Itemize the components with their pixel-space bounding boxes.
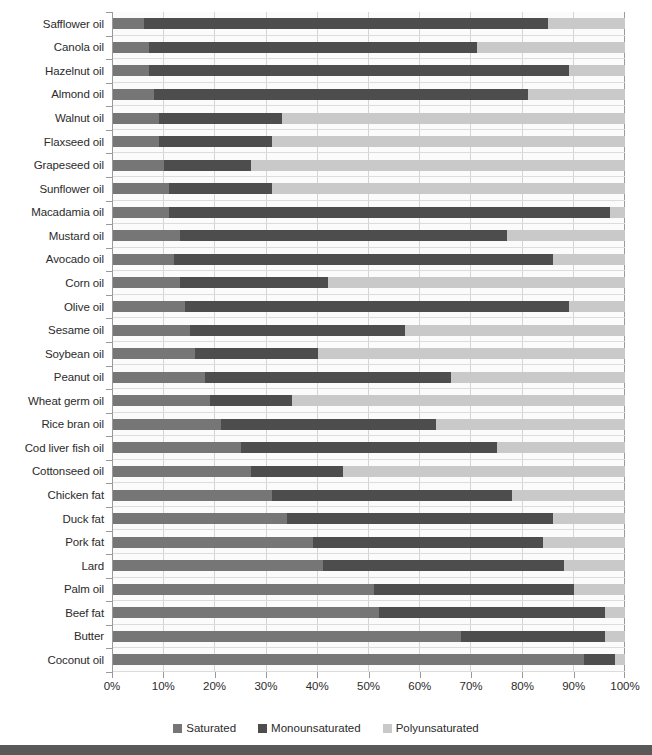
bar-segment-monounsaturated[interactable] [379, 607, 604, 618]
stacked-bar[interactable] [113, 136, 625, 147]
bar-segment-polyunsaturated[interactable] [405, 325, 625, 336]
stacked-bar[interactable] [113, 277, 625, 288]
stacked-bar[interactable] [113, 560, 625, 571]
bar-segment-polyunsaturated[interactable] [436, 419, 625, 430]
bar-row[interactable] [113, 83, 625, 107]
bar-row[interactable] [113, 648, 625, 672]
bar-segment-monounsaturated[interactable] [149, 65, 569, 76]
bar-segment-saturated[interactable] [113, 254, 174, 265]
bar-row[interactable] [113, 201, 625, 225]
stacked-bar[interactable] [113, 113, 625, 124]
bar-segment-saturated[interactable] [113, 160, 164, 171]
bar-segment-monounsaturated[interactable] [584, 654, 615, 665]
bar-segment-saturated[interactable] [113, 230, 180, 241]
bar-segment-saturated[interactable] [113, 207, 169, 218]
bar-segment-saturated[interactable] [113, 631, 461, 642]
bar-row[interactable] [113, 413, 625, 437]
bar-segment-monounsaturated[interactable] [164, 160, 251, 171]
bar-row[interactable] [113, 389, 625, 413]
stacked-bar[interactable] [113, 395, 625, 406]
bar-segment-saturated[interactable] [113, 18, 144, 29]
bar-segment-polyunsaturated[interactable] [553, 254, 625, 265]
bar-segment-saturated[interactable] [113, 183, 169, 194]
stacked-bar[interactable] [113, 348, 625, 359]
bar-segment-saturated[interactable] [113, 65, 149, 76]
stacked-bar[interactable] [113, 301, 625, 312]
bar-segment-monounsaturated[interactable] [461, 631, 604, 642]
bar-segment-monounsaturated[interactable] [195, 348, 318, 359]
bar-segment-monounsaturated[interactable] [180, 277, 328, 288]
bar-row[interactable] [113, 507, 625, 531]
stacked-bar[interactable] [113, 372, 625, 383]
stacked-bar[interactable] [113, 254, 625, 265]
stacked-bar[interactable] [113, 207, 625, 218]
bar-segment-saturated[interactable] [113, 89, 154, 100]
bar-segment-monounsaturated[interactable] [180, 230, 508, 241]
legend-item[interactable]: Monounsaturated [258, 722, 361, 734]
bar-row[interactable] [113, 578, 625, 602]
bar-segment-polyunsaturated[interactable] [282, 113, 625, 124]
bar-segment-polyunsaturated[interactable] [564, 560, 625, 571]
bar-segment-monounsaturated[interactable] [221, 419, 436, 430]
bar-segment-monounsaturated[interactable] [374, 584, 574, 595]
bar-segment-saturated[interactable] [113, 42, 149, 53]
stacked-bar[interactable] [113, 18, 625, 29]
bar-segment-saturated[interactable] [113, 113, 159, 124]
bar-segment-polyunsaturated[interactable] [548, 18, 625, 29]
stacked-bar[interactable] [113, 419, 625, 430]
bar-segment-saturated[interactable] [113, 136, 159, 147]
bar-row[interactable] [113, 224, 625, 248]
bar-segment-monounsaturated[interactable] [272, 490, 513, 501]
bar-segment-saturated[interactable] [113, 654, 584, 665]
stacked-bar[interactable] [113, 442, 625, 453]
bar-row[interactable] [113, 625, 625, 649]
stacked-bar[interactable] [113, 466, 625, 477]
bar-row[interactable] [113, 365, 625, 389]
bar-row[interactable] [113, 342, 625, 366]
bar-segment-polyunsaturated[interactable] [615, 654, 625, 665]
bar-row[interactable] [113, 59, 625, 83]
bar-segment-polyunsaturated[interactable] [605, 631, 625, 642]
bar-segment-monounsaturated[interactable] [159, 136, 272, 147]
bar-segment-polyunsaturated[interactable] [553, 513, 625, 524]
bar-segment-monounsaturated[interactable] [185, 301, 569, 312]
bar-segment-monounsaturated[interactable] [169, 207, 609, 218]
stacked-bar[interactable] [113, 325, 625, 336]
bar-segment-monounsaturated[interactable] [323, 560, 564, 571]
bar-row[interactable] [113, 460, 625, 484]
bar-segment-saturated[interactable] [113, 490, 272, 501]
bar-segment-saturated[interactable] [113, 372, 205, 383]
bar-segment-monounsaturated[interactable] [169, 183, 271, 194]
bar-segment-saturated[interactable] [113, 466, 251, 477]
bar-segment-saturated[interactable] [113, 560, 323, 571]
bar-row[interactable] [113, 271, 625, 295]
bar-segment-polyunsaturated[interactable] [292, 395, 625, 406]
bar-segment-saturated[interactable] [113, 442, 241, 453]
bar-row[interactable] [113, 295, 625, 319]
bar-segment-saturated[interactable] [113, 419, 221, 430]
bar-row[interactable] [113, 601, 625, 625]
bar-segment-monounsaturated[interactable] [241, 442, 497, 453]
bar-segment-saturated[interactable] [113, 325, 190, 336]
stacked-bar[interactable] [113, 183, 625, 194]
stacked-bar[interactable] [113, 631, 625, 642]
stacked-bar[interactable] [113, 490, 625, 501]
bar-segment-polyunsaturated[interactable] [272, 183, 625, 194]
bar-segment-monounsaturated[interactable] [159, 113, 282, 124]
bar-segment-monounsaturated[interactable] [210, 395, 292, 406]
bar-segment-polyunsaturated[interactable] [543, 537, 625, 548]
bar-row[interactable] [113, 483, 625, 507]
bar-row[interactable] [113, 248, 625, 272]
bar-segment-polyunsaturated[interactable] [497, 442, 625, 453]
bar-segment-polyunsaturated[interactable] [343, 466, 625, 477]
stacked-bar[interactable] [113, 230, 625, 241]
bar-segment-saturated[interactable] [113, 301, 185, 312]
bar-segment-monounsaturated[interactable] [313, 537, 543, 548]
bar-segment-saturated[interactable] [113, 584, 374, 595]
bar-row[interactable] [113, 436, 625, 460]
bar-segment-saturated[interactable] [113, 607, 379, 618]
bar-segment-monounsaturated[interactable] [205, 372, 451, 383]
legend-item[interactable]: Saturated [173, 722, 236, 734]
legend-item[interactable]: Polyunsaturated [383, 722, 479, 734]
bar-segment-monounsaturated[interactable] [154, 89, 528, 100]
